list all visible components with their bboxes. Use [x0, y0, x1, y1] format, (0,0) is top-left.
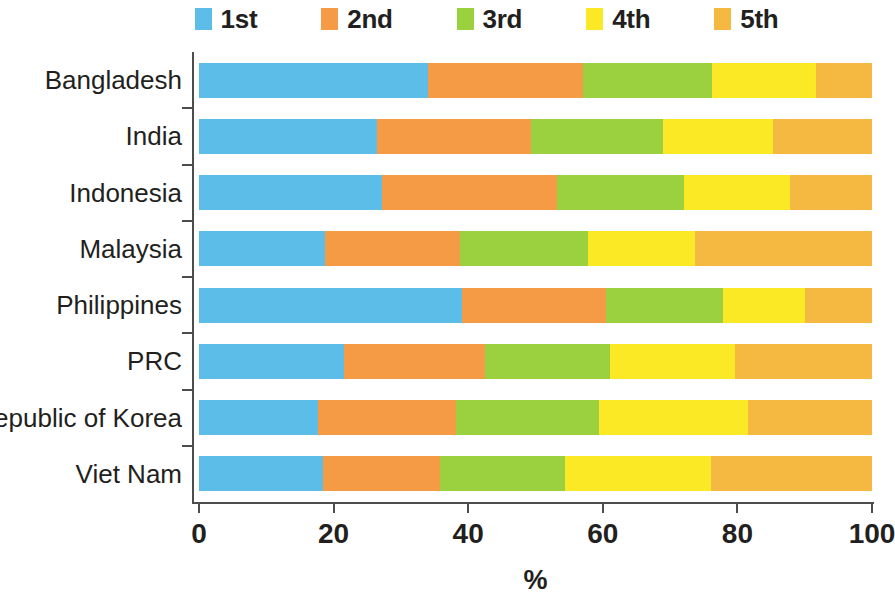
x-axis-tick: [467, 502, 469, 513]
y-axis-tick: [182, 107, 192, 109]
bar-segment: [440, 456, 565, 491]
x-axis-tick-label: 80: [722, 520, 753, 548]
y-axis-label: Republic of Korea: [0, 405, 182, 431]
y-axis-label: Philippines: [56, 292, 182, 318]
legend-item-2nd[interactable]: 2nd: [321, 6, 392, 32]
bar-row: [199, 63, 872, 98]
x-axis-tick-label: 60: [587, 520, 618, 548]
legend-swatch-3rd: [457, 8, 474, 30]
bar-segment: [805, 288, 872, 323]
bar-segment: [318, 400, 456, 435]
y-axis-tick: [182, 332, 192, 334]
x-axis-tick: [871, 502, 873, 513]
bar-segment: [199, 456, 323, 491]
y-axis-line: [192, 52, 194, 502]
x-axis-title: %: [199, 567, 872, 593]
bar-segment: [344, 344, 485, 379]
bar-segment: [323, 456, 440, 491]
bar-row: [199, 400, 872, 435]
legend-label-2nd: 2nd: [347, 6, 392, 32]
legend-swatch-4th: [586, 8, 603, 30]
x-axis-tick-label: 0: [191, 520, 207, 548]
legend-swatch-1st: [195, 8, 212, 30]
bar-segment: [735, 344, 872, 379]
bar-segment: [599, 400, 748, 435]
legend-label-3rd: 3rd: [483, 6, 523, 32]
y-axis-label: Viet Nam: [76, 461, 182, 487]
bar-segment: [695, 231, 872, 266]
legend-item-5th[interactable]: 5th: [714, 6, 778, 32]
bar-segment: [531, 119, 664, 154]
legend-label-4th: 4th: [612, 6, 650, 32]
bar-row: [199, 456, 872, 491]
y-axis-tick: [182, 445, 192, 447]
x-axis-tick: [736, 502, 738, 513]
y-axis-label: Indonesia: [69, 180, 182, 206]
y-axis-label: India: [126, 123, 182, 149]
bar-row: [199, 231, 872, 266]
plot-area: 020406080100 %: [199, 52, 872, 502]
x-axis-tick-label: 100: [849, 520, 895, 548]
bar-segment: [460, 231, 588, 266]
bar-segment: [748, 400, 872, 435]
bar-segment: [199, 119, 377, 154]
y-axis-tick: [182, 276, 192, 278]
legend-swatch-5th: [714, 8, 731, 30]
y-axis-label: PRC: [127, 348, 182, 374]
x-axis-tick: [333, 502, 335, 513]
legend-item-3rd[interactable]: 3rd: [457, 6, 523, 32]
bar-segment: [456, 400, 599, 435]
bar-segment: [723, 288, 805, 323]
bar-segment: [485, 344, 610, 379]
bar-segment: [588, 231, 695, 266]
bar-row: [199, 344, 872, 379]
bar-segment: [199, 344, 344, 379]
x-axis-tick-label: 40: [453, 520, 484, 548]
bar-segment: [382, 175, 557, 210]
bar-segment: [377, 119, 530, 154]
bar-row: [199, 175, 872, 210]
y-axis-category-labels: BangladeshIndiaIndonesiaMalaysiaPhilippi…: [0, 52, 182, 502]
bar-segment: [712, 63, 816, 98]
bar-segment: [606, 288, 723, 323]
bar-segment: [199, 63, 428, 98]
y-axis-label: Malaysia: [79, 236, 182, 262]
bar-segment: [711, 456, 872, 491]
bar-segment: [325, 231, 460, 266]
bar-segment: [557, 175, 684, 210]
bar-segment: [199, 288, 462, 323]
x-axis-line: [192, 502, 874, 504]
y-axis-tick: [182, 220, 192, 222]
legend-item-4th[interactable]: 4th: [586, 6, 650, 32]
legend-item-1st[interactable]: 1st: [195, 6, 258, 32]
bar-segment: [773, 119, 872, 154]
bar-segment: [199, 231, 325, 266]
x-axis-tick: [198, 502, 200, 513]
bar-segment: [684, 175, 790, 210]
bar-segment: [610, 344, 735, 379]
bar-segment: [790, 175, 872, 210]
bar-segment: [663, 119, 773, 154]
legend-label-5th: 5th: [740, 6, 778, 32]
bar-segment: [428, 63, 583, 98]
legend-label-1st: 1st: [221, 6, 258, 32]
bar-segment: [816, 63, 872, 98]
bar-row: [199, 288, 872, 323]
bar-row: [199, 119, 872, 154]
bar-segment: [462, 288, 606, 323]
bar-segment: [583, 63, 712, 98]
chart-legend: 1st 2nd 3rd 4th 5th: [0, 6, 893, 32]
bar-segment: [199, 175, 382, 210]
x-axis-tick-label: 20: [318, 520, 349, 548]
y-axis-tick: [182, 164, 192, 166]
y-axis-label: Bangladesh: [45, 67, 182, 93]
bar-segment: [199, 400, 318, 435]
y-axis-tick: [182, 389, 192, 391]
bar-segment: [565, 456, 711, 491]
legend-swatch-2nd: [321, 8, 338, 30]
x-axis-tick: [602, 502, 604, 513]
